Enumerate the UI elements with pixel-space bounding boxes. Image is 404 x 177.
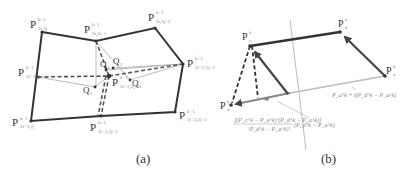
svg-text:d: d	[227, 107, 230, 112]
svg-text:P: P	[179, 109, 185, 121]
svg-text:3: 3	[139, 84, 142, 89]
svg-text:P: P	[12, 116, 18, 128]
svg-text:P: P	[220, 100, 226, 111]
formula-leader-line	[352, 87, 356, 90]
caption-a: (a)	[136, 151, 150, 166]
point-dots	[29, 26, 184, 122]
svg-text:P: P	[187, 57, 193, 69]
boundary-edge	[31, 28, 183, 121]
svg-text:Q: Q	[100, 59, 107, 69]
projection-denominator: |P_d^k − P_a^k|²	[248, 126, 290, 132]
svg-text:3i+3,2j: 3i+3,2j	[20, 124, 34, 130]
q-label-2: Q 2	[113, 56, 123, 67]
svg-text:3i,2j+1: 3i,2j+1	[92, 31, 107, 37]
svg-text:k+1: k+1	[156, 10, 164, 15]
dashed-projection-lines	[232, 46, 258, 103]
point-label-pa: P k a	[386, 64, 396, 77]
svg-text:P: P	[112, 76, 118, 88]
q-label-4: Q 4	[100, 59, 110, 70]
svg-text:P: P	[386, 65, 392, 76]
svg-text:P: P	[90, 121, 96, 133]
svg-text:Q: Q	[132, 78, 139, 88]
svg-text:3i+2,2j+2: 3i+2,2j+2	[195, 65, 215, 71]
svg-text:3i+1,2j: 3i+1,2j	[26, 74, 40, 80]
svg-text:P: P	[18, 66, 24, 78]
projection-leader-line	[277, 101, 309, 118]
svg-text:P: P	[148, 11, 154, 23]
projection-tail: (P_d^k − P_a^k)	[294, 122, 335, 129]
point-label-pd: P k d	[220, 99, 230, 112]
svg-text:P: P	[30, 18, 36, 30]
svg-text:k+1: k+1	[20, 116, 28, 121]
svg-text:k: k	[227, 99, 230, 104]
svg-text:Q: Q	[83, 85, 90, 95]
construction-lines	[38, 41, 183, 87]
line-pa-pd-light	[290, 76, 385, 93]
point-label-3i-2j1: P k+1 3i,2j+1	[84, 22, 107, 37]
point-label-pb: P k b	[338, 17, 348, 30]
svg-text:k+1: k+1	[38, 17, 46, 22]
arrow-to-pd	[236, 93, 290, 104]
svg-text:b: b	[345, 25, 348, 30]
figure-canvas: P k+1 3i,2j P k+1 3i,2j+1 P k+1 3i,2j+2 …	[0, 0, 404, 177]
point-label-3i3-2j2: P k+1 3i+3,2j+2	[179, 109, 207, 123]
svg-text:P: P	[338, 18, 344, 29]
point-label-3i2-2j2: P k+1 3i+2,2j+2	[187, 56, 215, 71]
panel-a: P k+1 3i,2j P k+1 3i,2j+1 P k+1 3i,2j+2 …	[12, 10, 215, 166]
arrow-to-pc	[255, 52, 288, 94]
svg-text:2: 2	[120, 62, 123, 67]
caption-b: (b)	[321, 151, 336, 166]
svg-text:k+1: k+1	[92, 22, 100, 27]
svg-text:3i+3,2j+1: 3i+3,2j+1	[98, 129, 118, 135]
dashed-lines	[38, 41, 183, 116]
svg-text:c: c	[249, 38, 252, 43]
svg-text:k+1: k+1	[187, 109, 195, 114]
svg-text:k+1: k+1	[195, 56, 203, 61]
edge-pc-pb	[250, 32, 340, 46]
point-label-3i-2j2: P k+1 3i,2j+2	[148, 10, 171, 25]
svg-text:4: 4	[107, 65, 110, 70]
svg-text:k+1: k+1	[120, 75, 128, 80]
svg-text:1: 1	[90, 91, 93, 96]
svg-text:k+1: k+1	[98, 120, 106, 125]
arrow-pa-pb	[345, 37, 385, 76]
line-formula: P_a^k + t(P_d^k − P_a^k)	[331, 92, 396, 99]
svg-text:a: a	[393, 72, 396, 77]
point-label-3i3-2j1: P k+1 3i+3,2j+1	[90, 120, 118, 135]
svg-text:3i+3,2j+2: 3i+3,2j+2	[187, 117, 207, 123]
svg-text:Q: Q	[113, 56, 120, 66]
svg-text:k: k	[249, 30, 252, 35]
panel-b: P k c P k b P k a P k d P_a^k + t(P_d^k …	[220, 17, 396, 166]
svg-text:k: k	[393, 64, 396, 69]
point-label-pc: P k c	[242, 30, 252, 43]
svg-text:P: P	[242, 31, 248, 42]
svg-text:P: P	[84, 23, 90, 35]
point-label-3i-2j: P k+1 3i,2j	[30, 17, 47, 32]
q-label-3: Q 3	[132, 78, 142, 89]
svg-text:3i,2j+2: 3i,2j+2	[156, 19, 171, 25]
svg-text:k+1: k+1	[26, 65, 34, 70]
svg-text:k: k	[345, 17, 348, 22]
